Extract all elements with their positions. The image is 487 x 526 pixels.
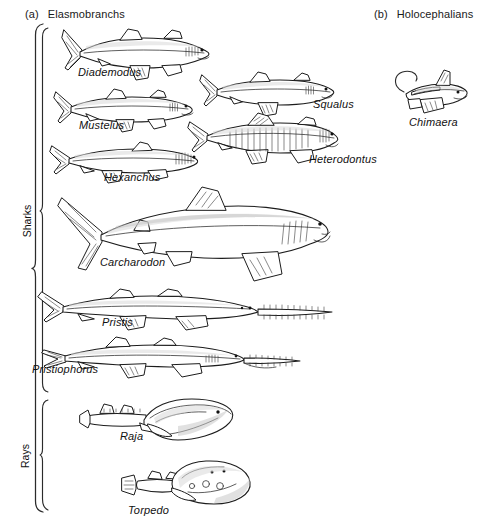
panel-tag-a: (a) xyxy=(25,8,39,20)
taxon-label-squalus: Squalus xyxy=(313,98,354,110)
taxon-label-chimaera: Chimaera xyxy=(409,116,458,128)
panel-title-b: Holocephalians xyxy=(397,8,474,20)
panel-tag-b: (b) xyxy=(374,8,388,20)
panel-title-a: Elasmobranchs xyxy=(48,8,125,20)
fish-carcharodon xyxy=(56,186,346,284)
taxon-label-hexanchus: Hexanchus xyxy=(104,171,160,183)
taxon-label-torpedo: Torpedo xyxy=(128,504,169,516)
fish-raja xyxy=(78,396,236,450)
panel-label-b: (b)Holocephalians xyxy=(374,8,473,20)
taxon-label-diademodus: Diademodus xyxy=(78,66,141,78)
fish-mustelus xyxy=(52,86,200,134)
fish-squalus xyxy=(198,68,340,118)
taxon-label-carcharodon: Carcharodon xyxy=(100,256,165,268)
group-label-sharks: Sharks xyxy=(21,191,33,251)
group-label-rays: Rays xyxy=(19,426,31,486)
sharks-brace xyxy=(39,26,51,394)
taxon-label-pristiophorus: Pristiophorus xyxy=(32,363,98,375)
taxon-label-heterodontus: Heterodontus xyxy=(309,153,377,165)
taxon-label-raja: Raja xyxy=(120,430,143,442)
fish-pristiophorus xyxy=(40,336,310,382)
taxon-label-pristis: Pristis xyxy=(102,316,133,328)
fish-torpedo xyxy=(120,458,256,508)
rays-brace xyxy=(39,398,51,512)
figure-root: (a)Elasmobranchs (b)Holocephalians Shark… xyxy=(0,0,487,526)
taxon-label-mustelus: Mustelus xyxy=(79,119,124,131)
fish-chimaera xyxy=(388,68,472,116)
fish-pristis xyxy=(36,288,338,334)
elasmobranch-outer-brace xyxy=(30,22,46,514)
panel-label-a: (a)Elasmobranchs xyxy=(25,8,125,20)
